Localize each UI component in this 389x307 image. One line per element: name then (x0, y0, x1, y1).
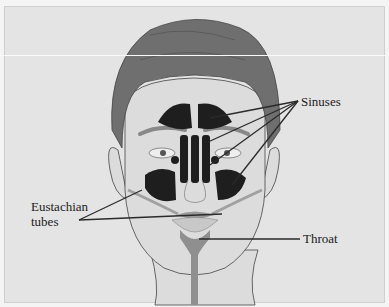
label-eustachian-line1: Eustachian (31, 200, 88, 214)
scan-artifact (0, 55, 389, 56)
label-throat: Throat (303, 232, 338, 246)
head-illustration (0, 0, 389, 307)
label-sinuses: Sinuses (301, 95, 341, 109)
label-eustachian-line2: tubes (31, 215, 58, 229)
diagram-canvas: Sinuses Eustachian tubes Throat (0, 0, 389, 307)
